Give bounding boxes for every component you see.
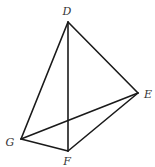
edge-d-g <box>21 22 68 139</box>
edge-d-e <box>68 22 138 93</box>
edge-g-f <box>21 139 68 151</box>
vertex-label-g: G <box>6 136 15 149</box>
edge-g-e <box>21 93 138 139</box>
vertex-label-e: E <box>143 88 152 101</box>
vertex-label-f: F <box>62 155 71 167</box>
edge-f-e <box>68 93 138 151</box>
edges <box>21 22 138 151</box>
vertex-label-d: D <box>62 5 72 18</box>
tetrahedron-diagram: D E G F <box>0 0 155 167</box>
